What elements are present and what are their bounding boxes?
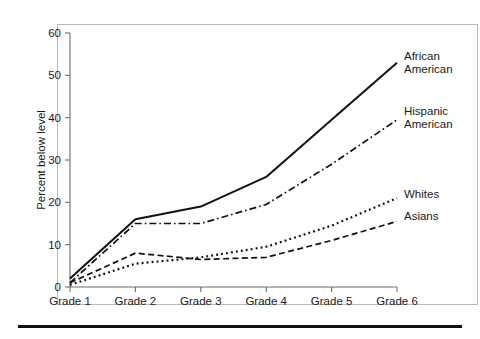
series-labels: AfricanAmericanHispanicAmericanWhitesAsi… xyxy=(404,50,453,222)
series-label-hispanic-american: Hispanic xyxy=(404,105,448,117)
x-tick-label: Grade 4 xyxy=(245,295,287,307)
series-label-hispanic-american-line2: American xyxy=(404,118,453,130)
y-tick-label: 50 xyxy=(48,69,61,81)
chart-screenshot: Percent below level 0102030405060 Grade … xyxy=(0,0,480,339)
y-axis-title: Percent below level xyxy=(35,110,47,210)
y-tick-label: 0 xyxy=(55,281,61,293)
line-chart: Percent below level 0102030405060 Grade … xyxy=(0,0,480,339)
x-tick-label: Grade 3 xyxy=(180,295,222,307)
y-tick-label: 40 xyxy=(48,112,61,124)
x-tick-label: Grade 5 xyxy=(311,295,353,307)
series-label-asians: Asians xyxy=(404,210,439,222)
x-tick-label: Grade 1 xyxy=(49,295,91,307)
y-tick-label: 10 xyxy=(48,239,61,251)
series-line-african-american xyxy=(70,63,397,279)
series-line-whites xyxy=(70,198,397,285)
series-line-asians xyxy=(70,221,397,282)
series-lines xyxy=(70,63,397,285)
series-label-african-american-line2: American xyxy=(404,63,453,75)
x-axis-ticks: Grade 1Grade 2Grade 3Grade 4Grade 5Grade… xyxy=(49,287,418,307)
y-tick-label: 20 xyxy=(48,196,61,208)
series-label-african-american: African xyxy=(404,50,440,62)
series-label-whites: Whites xyxy=(404,188,439,200)
x-tick-label: Grade 2 xyxy=(115,295,157,307)
y-axis-ticks: 0102030405060 xyxy=(48,27,70,293)
x-tick-label: Grade 6 xyxy=(376,295,418,307)
y-tick-label: 30 xyxy=(48,154,61,166)
y-tick-label: 60 xyxy=(48,27,61,39)
